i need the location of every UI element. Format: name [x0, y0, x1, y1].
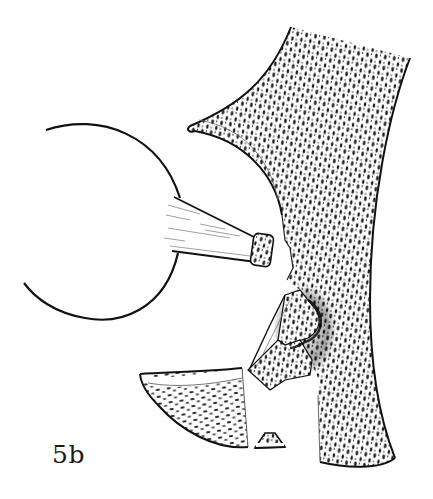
- bone-fracture-illustration: [0, 0, 433, 499]
- small-chip-fragment: [255, 433, 285, 448]
- ball-head-outline: [24, 124, 180, 320]
- figure-label: 5b: [52, 440, 85, 469]
- lower-left-fragment: [140, 368, 248, 447]
- ligament-stump: [164, 197, 274, 267]
